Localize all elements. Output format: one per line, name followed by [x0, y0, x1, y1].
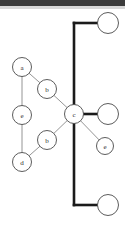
node-circle[interactable] — [65, 105, 84, 124]
graph-node-e[interactable]: e — [13, 106, 32, 125]
node-circle[interactable] — [98, 104, 119, 125]
graph-node-empty[interactable] — [98, 13, 119, 34]
graph-node-empty[interactable] — [98, 104, 119, 125]
graph-diagram: abecbde — [0, 0, 125, 228]
node-layer: abecbde — [13, 13, 119, 216]
graph-node-a[interactable]: a — [13, 58, 32, 77]
node-circle[interactable] — [38, 131, 57, 150]
graph-node-d[interactable]: d — [13, 153, 32, 172]
graph-node-c[interactable]: c — [65, 105, 84, 124]
node-circle[interactable] — [13, 58, 32, 77]
node-circle[interactable] — [97, 138, 114, 155]
node-circle[interactable] — [13, 153, 32, 172]
node-circle[interactable] — [38, 80, 57, 99]
graph-node-e[interactable]: e — [97, 138, 114, 155]
figure-canvas: abecbde — [0, 0, 125, 228]
graph-node-b[interactable]: b — [38, 80, 57, 99]
node-circle[interactable] — [98, 195, 119, 216]
graph-node-b[interactable]: b — [38, 131, 57, 150]
graph-node-empty[interactable] — [98, 195, 119, 216]
node-circle[interactable] — [13, 106, 32, 125]
node-circle[interactable] — [98, 13, 119, 34]
